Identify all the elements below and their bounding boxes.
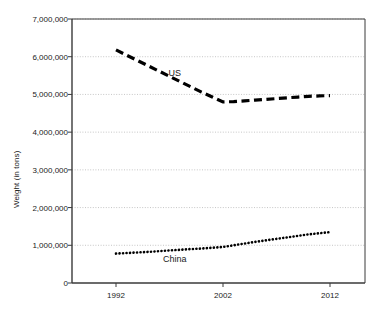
x-axis-tick-label: 2002 xyxy=(214,291,232,300)
line-chart: Weight (in tons) 01,000,0002,000,0003,00… xyxy=(0,0,379,314)
series-line-china xyxy=(116,232,330,253)
x-axis-tick-label: 2012 xyxy=(321,291,339,300)
series-label-china: China xyxy=(163,254,187,264)
plot-area xyxy=(0,0,379,314)
x-axis-tick-label: 1992 xyxy=(107,291,125,300)
series-label-us: US xyxy=(169,68,182,78)
